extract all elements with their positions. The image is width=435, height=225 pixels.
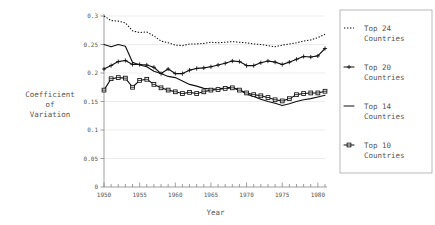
legend-label-line2-0: Countries	[364, 34, 405, 43]
x-tick-label-1950: 1950	[97, 191, 112, 198]
x-axis-tick-labels: 1950195519601965197019751980	[97, 191, 326, 198]
series-top-24-countries	[104, 16, 325, 47]
legend-label-line2-2: Countries	[364, 112, 405, 121]
y-tick-label-0.05: 0.05	[84, 155, 99, 162]
y-tick-label-0.25: 0.25	[84, 41, 99, 48]
series-line-0	[104, 16, 325, 47]
legend-label-line1-2: Top 14	[364, 102, 392, 111]
coefficient-of-variation-chart: 00.050.10.150.20.250.3 19501955196019651…	[0, 0, 435, 225]
legend-label-line1-3: Top 10	[364, 141, 392, 150]
series-top-14-countries	[104, 45, 325, 106]
y-axis-title: Coefficient of Variation	[25, 90, 75, 119]
series-line-1	[104, 48, 325, 73]
legend: Top 24CountriesTop 20CountriesTop 14Coun…	[340, 10, 432, 173]
legend-label-line2-3: Countries	[364, 151, 405, 160]
gridlines	[104, 16, 325, 159]
legend-label-line1-0: Top 24	[364, 24, 392, 33]
y-tick-label-0.2: 0.2	[87, 69, 98, 76]
series-line-3	[104, 78, 325, 101]
x-tick-label-1965: 1965	[204, 191, 219, 198]
y-axis-title-line-1: Coefficient	[25, 90, 75, 99]
x-tick-label-1975: 1975	[275, 191, 290, 198]
series-line-2	[104, 45, 325, 106]
plot-series-group	[102, 16, 327, 105]
x-axis-ticks	[104, 183, 325, 188]
x-tick-label-1980: 1980	[311, 191, 326, 198]
legend-label-line2-1: Countries	[364, 73, 405, 82]
y-tick-label-0.1: 0.1	[87, 126, 98, 133]
x-tick-label-1970: 1970	[239, 191, 254, 198]
x-tick-label-1955: 1955	[132, 191, 147, 198]
chart-root: 00.050.10.150.20.250.3 19501955196019651…	[0, 0, 435, 225]
y-tick-label-0.15: 0.15	[84, 98, 99, 105]
y-tick-label-0: 0	[94, 183, 98, 190]
series-top-10-countries	[102, 76, 327, 103]
x-axis-title: Year	[206, 208, 225, 217]
y-axis-tick-labels: 00.050.10.150.20.250.3	[84, 12, 99, 190]
y-axis-title-line-2: of	[45, 100, 54, 109]
legend-label-line1-1: Top 20	[364, 63, 392, 72]
y-tick-label-0.3: 0.3	[87, 12, 98, 19]
y-axis-ticks	[101, 16, 105, 187]
series-top-20-countries	[102, 46, 327, 75]
y-axis-title-line-3: Variation	[30, 110, 71, 119]
x-tick-label-1960: 1960	[168, 191, 183, 198]
axes	[104, 14, 327, 187]
